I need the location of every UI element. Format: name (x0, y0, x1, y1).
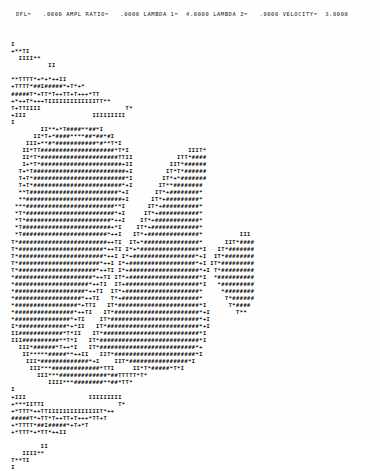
parameter-header-line: DFL= .0000 AMPL RATIO= .0000 LAMBDA 1= 4… (16, 11, 348, 18)
ascii-art-plot: I +**TI IIII** II **TTTT*+*+*++II +TTTT*… (4, 41, 254, 471)
